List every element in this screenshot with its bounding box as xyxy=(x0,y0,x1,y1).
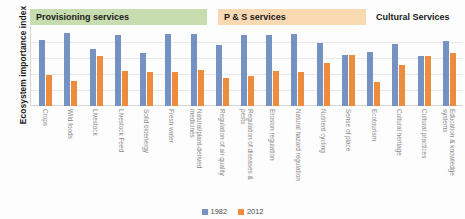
ecosystem-importance-bar-chart: Ecosystem importance index Provisioning … xyxy=(0,0,465,219)
x-tick-label: Solid bioenergy xyxy=(142,109,149,195)
bar-1982 xyxy=(90,49,96,106)
bar-group xyxy=(33,26,58,106)
tick-cell: Regulation of air quality xyxy=(209,107,234,195)
bar-1982 xyxy=(115,35,121,106)
tick-cell: Cultural practices xyxy=(411,107,436,195)
tick-cell: Sense of place xyxy=(336,107,361,195)
tick-cell: Crops xyxy=(32,107,57,195)
bar-1982 xyxy=(418,56,424,106)
bar-group xyxy=(437,26,462,106)
x-tick-label: Fresh water xyxy=(167,109,174,195)
tick-cell: Natural hazard regulation xyxy=(285,107,310,195)
bar-group xyxy=(412,26,437,106)
plot-area xyxy=(30,26,463,106)
bar-2012 xyxy=(399,65,405,106)
group-band-provisioning-label: Provisioning services xyxy=(36,12,129,22)
bar-group xyxy=(109,26,134,106)
tick-cell: Wild foods xyxy=(57,107,82,195)
x-tick-label: Education & knowledge systems xyxy=(442,109,457,195)
x-tick-label: Wild foods xyxy=(66,109,73,195)
bar-group xyxy=(260,26,285,106)
bar-1982 xyxy=(39,40,45,106)
bar-1982 xyxy=(64,33,70,106)
bar-1982 xyxy=(140,53,146,106)
bar-group xyxy=(285,26,310,106)
x-axis-tick-labels: CropsWild foodsLivestockLivestock FeedSo… xyxy=(30,107,463,195)
bar-2012 xyxy=(97,56,103,106)
group-band-cultural: Cultural Services xyxy=(370,9,465,25)
x-tick-label: Erosion regulation xyxy=(269,109,276,195)
tick-cell: Fresh water xyxy=(158,107,183,195)
legend-label-2012: 2012 xyxy=(247,207,263,216)
x-tick-label: Ecotourism xyxy=(370,109,377,195)
bar-1982 xyxy=(392,44,398,106)
bar-group xyxy=(361,26,386,106)
tick-cell: Natural/plant-derived medicines xyxy=(184,107,209,195)
bar-group xyxy=(184,26,209,106)
bar-1982 xyxy=(367,52,373,106)
bar-group xyxy=(83,26,108,106)
bar-1982 xyxy=(443,41,449,106)
bar-1982 xyxy=(342,55,348,106)
bar-2012 xyxy=(324,63,330,106)
bar-1982 xyxy=(241,35,247,106)
x-tick-label: Cultural heritage xyxy=(395,109,402,195)
bar-2012 xyxy=(223,78,229,106)
x-tick-label: Natural hazard regulation xyxy=(294,109,301,195)
x-tick-label: Regulation of diseases & pests xyxy=(240,109,255,195)
bar-2012 xyxy=(71,81,77,106)
group-band-p-and-s: P & S services xyxy=(218,9,366,25)
tick-cell: Ecotourism xyxy=(361,107,386,195)
bar-2012 xyxy=(122,71,128,106)
legend-item-2012: 2012 xyxy=(238,207,263,216)
group-band-provisioning: Provisioning services xyxy=(30,9,207,25)
bar-series-container xyxy=(31,26,463,106)
tick-cell: Livestock Feed xyxy=(108,107,133,195)
bar-2012 xyxy=(450,53,456,106)
tick-cell: Cultural heritage xyxy=(386,107,411,195)
bar-group xyxy=(210,26,235,106)
bar-group xyxy=(386,26,411,106)
legend-item-1982: 1982 xyxy=(202,207,227,216)
category-group-bands: Provisioning services P & S services Cul… xyxy=(30,9,463,25)
bar-2012 xyxy=(198,70,204,106)
tick-cell: Education & knowledge systems xyxy=(437,107,462,195)
bar-group xyxy=(134,26,159,106)
bar-2012 xyxy=(374,82,380,106)
bar-group xyxy=(58,26,83,106)
tick-cell: Nutrient cycling xyxy=(310,107,335,195)
tick-cell: Livestock xyxy=(83,107,108,195)
x-tick-label: Nutrient cycling xyxy=(319,109,326,195)
x-tick-label: Livestock xyxy=(92,109,99,195)
x-tick-label: Cultural practices xyxy=(420,109,427,195)
bar-2012 xyxy=(147,72,153,106)
bar-1982 xyxy=(216,45,222,106)
tick-cell: Solid bioenergy xyxy=(133,107,158,195)
bar-1982 xyxy=(291,34,297,106)
bar-group xyxy=(336,26,361,106)
bar-1982 xyxy=(165,34,171,106)
group-band-cultural-label: Cultural Services xyxy=(376,12,450,22)
bar-group xyxy=(159,26,184,106)
x-tick-label: Regulation of air quality xyxy=(218,109,225,195)
bar-2012 xyxy=(349,55,355,106)
bar-1982 xyxy=(191,34,197,106)
bar-1982 xyxy=(266,35,272,106)
bar-2012 xyxy=(425,56,431,106)
legend-swatch-2012-icon xyxy=(238,209,244,215)
y-axis-title: Ecosystem importance index xyxy=(18,0,28,140)
bar-1982 xyxy=(317,43,323,106)
bar-group xyxy=(311,26,336,106)
tick-cell: Regulation of diseases & pests xyxy=(234,107,259,195)
bar-2012 xyxy=(46,75,52,106)
legend-label-1982: 1982 xyxy=(211,207,227,216)
bar-2012 xyxy=(273,71,279,106)
x-tick-label: Livestock Feed xyxy=(117,109,124,195)
bar-2012 xyxy=(172,72,178,106)
bar-2012 xyxy=(248,76,254,106)
legend-swatch-1982-icon xyxy=(202,209,208,215)
bar-group xyxy=(235,26,260,106)
x-tick-label: Sense of place xyxy=(345,109,352,195)
tick-cell: Erosion regulation xyxy=(260,107,285,195)
x-tick-label: Natural/plant-derived medicines xyxy=(189,109,204,195)
